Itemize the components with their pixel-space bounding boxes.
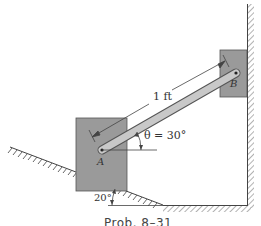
floor (163, 206, 251, 213)
mechanism-diagram (0, 0, 261, 226)
right-wall (248, 4, 255, 208)
theta-arrow-icon (139, 145, 143, 150)
length-label: 1 ft (153, 91, 172, 102)
incline-angle-label: 20° (94, 193, 112, 203)
block-a (76, 118, 127, 191)
pin-b-icon (234, 71, 237, 74)
theta-label: θ = 30° (144, 130, 186, 141)
point-b-label: B (230, 79, 237, 89)
figure-caption: Prob. 8–31 (104, 216, 172, 226)
point-a-label: A (97, 157, 104, 167)
